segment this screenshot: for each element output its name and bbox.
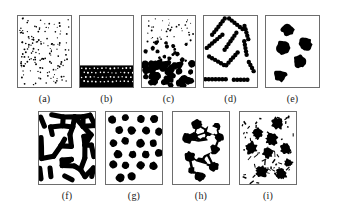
panel-f-image xyxy=(38,111,96,185)
panel-e: (e) xyxy=(265,15,320,104)
panel-b-image xyxy=(79,15,134,88)
panel-a-label: (a) xyxy=(39,94,51,104)
panel-c-label: (c) xyxy=(163,94,175,104)
panel-c-image xyxy=(141,15,196,88)
panel-g-image xyxy=(105,111,163,185)
panel-g-label: (g) xyxy=(128,191,140,201)
panel-i: (i) xyxy=(239,111,297,201)
panel-h-image xyxy=(172,111,230,185)
panel-b: (b) xyxy=(79,15,134,104)
panel-f: (f) xyxy=(38,111,96,201)
figure-root: (a) (b) (c) (d) xyxy=(0,0,340,212)
panel-e-label: (e) xyxy=(287,94,299,104)
panel-row-bottom: (f) (g) (h) (i) xyxy=(38,111,297,201)
panel-h: (h) xyxy=(172,111,230,201)
panel-d-label: (d) xyxy=(224,94,236,104)
panel-i-label: (i) xyxy=(263,191,273,201)
panel-d: (d) xyxy=(203,15,258,104)
panel-b-label: (b) xyxy=(100,94,112,104)
panel-a: (a) xyxy=(17,15,72,104)
panel-g: (g) xyxy=(105,111,163,201)
panel-f-label: (f) xyxy=(62,191,73,201)
panel-c: (c) xyxy=(141,15,196,104)
panel-e-graphic xyxy=(266,16,319,87)
panel-a-image xyxy=(17,15,72,88)
panel-d-graphic xyxy=(204,16,257,87)
panel-row-top: (a) (b) (c) (d) xyxy=(17,15,320,104)
panel-i-graphic xyxy=(240,112,296,184)
panel-a-graphic xyxy=(18,16,71,87)
panel-g-graphic xyxy=(106,112,162,184)
panel-c-graphic xyxy=(142,16,195,87)
panel-b-graphic xyxy=(80,16,133,87)
panel-h-label: (h) xyxy=(195,191,207,201)
panel-d-image xyxy=(203,15,258,88)
panel-h-graphic xyxy=(173,112,229,184)
panel-e-image xyxy=(265,15,320,88)
panel-f-graphic xyxy=(39,112,95,184)
panel-i-image xyxy=(239,111,297,185)
